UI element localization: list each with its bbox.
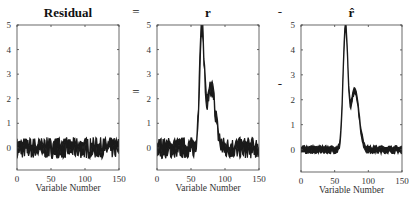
data-series bbox=[157, 19, 259, 159]
minus-operator: - bbox=[278, 4, 282, 19]
data-series bbox=[301, 24, 402, 154]
y-tick-label: 5 bbox=[291, 20, 296, 30]
chart-title: r̂ bbox=[349, 5, 355, 20]
chart-panel-1: Residual012345050100150Variable Number bbox=[7, 5, 127, 193]
y-tick-label: 5 bbox=[7, 20, 12, 30]
x-axis-label: Variable Number bbox=[319, 185, 385, 195]
x-tick-label: 150 bbox=[395, 176, 409, 186]
chart-title: r bbox=[205, 5, 211, 20]
y-tick-label: 2 bbox=[7, 94, 12, 104]
data-series bbox=[17, 137, 119, 158]
x-tick-label: 150 bbox=[252, 174, 266, 184]
y-tick-label: 1 bbox=[147, 118, 152, 128]
y-tick-label: 2 bbox=[291, 95, 296, 105]
x-tick-label: 0 bbox=[15, 174, 20, 184]
equals-operator: = bbox=[132, 4, 139, 19]
x-axis-label: Variable Number bbox=[35, 183, 101, 193]
y-tick-label: 3 bbox=[291, 70, 296, 80]
figure: Residual012345050100150Variable Numberr0… bbox=[0, 0, 412, 198]
y-tick-label: 5 bbox=[147, 20, 152, 30]
x-tick-label: 0 bbox=[155, 174, 160, 184]
y-tick-label: 4 bbox=[291, 45, 296, 55]
y-tick-label: 0 bbox=[291, 145, 296, 155]
x-axis-label: Variable Number bbox=[175, 183, 241, 193]
chart-panel-2: r012345050100150Variable Number bbox=[147, 5, 267, 193]
minus-operator: - bbox=[278, 76, 282, 91]
y-tick-label: 0 bbox=[7, 143, 12, 153]
chart-panel-3: r̂012345050100150Variable Number bbox=[291, 5, 410, 195]
y-tick-label: 0 bbox=[147, 143, 152, 153]
y-tick-label: 4 bbox=[147, 45, 152, 55]
y-tick-label: 1 bbox=[7, 118, 12, 128]
y-tick-label: 3 bbox=[7, 69, 12, 79]
x-tick-label: 0 bbox=[299, 176, 304, 186]
chart-title: Residual bbox=[44, 5, 93, 20]
y-tick-label: 4 bbox=[7, 45, 12, 55]
y-tick-label: 1 bbox=[291, 120, 296, 130]
y-tick-label: 2 bbox=[147, 94, 152, 104]
y-tick-label: 3 bbox=[147, 69, 152, 79]
equals-operator: = bbox=[132, 84, 139, 99]
x-tick-label: 150 bbox=[112, 174, 126, 184]
